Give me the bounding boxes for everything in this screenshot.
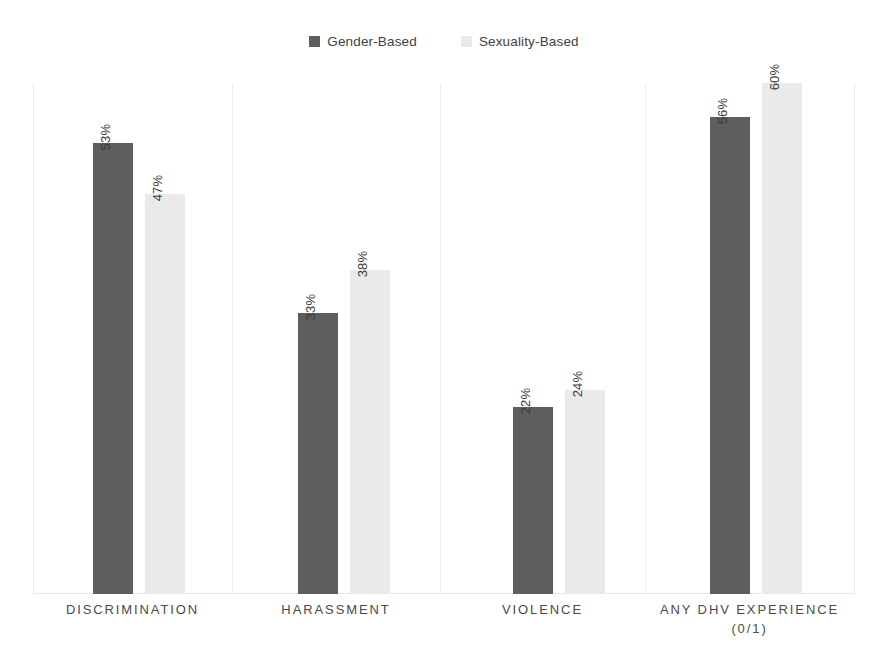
category-label-harassment: HARASSMENT bbox=[232, 600, 440, 619]
bar-value-label: 38% bbox=[355, 251, 370, 278]
legend-entry-gender-based: Gender-Based bbox=[309, 34, 417, 49]
legend-label: Sexuality-Based bbox=[479, 34, 579, 49]
bar-sexuality-based-any-dhv-experience: 60% bbox=[762, 83, 802, 594]
bar-value-label: 33% bbox=[303, 294, 318, 321]
group-separator-1 bbox=[232, 83, 233, 594]
bar-value-label: 47% bbox=[150, 174, 165, 201]
plot-border-right bbox=[854, 83, 855, 594]
legend-swatch-icon bbox=[461, 36, 472, 47]
group-separator-3 bbox=[645, 83, 646, 594]
category-label-discrimination: DISCRIMINATION bbox=[33, 600, 232, 619]
x-axis-category-labels: DISCRIMINATION HARASSMENT VIOLENCE ANY D… bbox=[33, 600, 855, 660]
category-label-violence: VIOLENCE bbox=[440, 600, 645, 619]
bar-value-label: 60% bbox=[767, 64, 782, 91]
legend-swatch-icon bbox=[309, 36, 320, 47]
legend-entry-sexuality-based: Sexuality-Based bbox=[461, 34, 579, 49]
bar-gender-based-discrimination: 53% bbox=[93, 143, 133, 594]
bar-sexuality-based-harassment: 38% bbox=[350, 270, 390, 594]
bar-value-label: 56% bbox=[715, 98, 730, 125]
plot-border-left bbox=[33, 83, 34, 594]
bar-sexuality-based-discrimination: 47% bbox=[145, 194, 185, 594]
plot-area: 53% 47% 33% 38% 22% 24% 56% 60% bbox=[33, 83, 855, 594]
bar-value-label: 24% bbox=[570, 370, 585, 397]
legend-label: Gender-Based bbox=[327, 34, 417, 49]
chart-legend: Gender-Based Sexuality-Based bbox=[0, 34, 888, 49]
bar-value-label: 22% bbox=[518, 387, 533, 414]
category-label-any-dhv-experience: ANY DHV EXPERIENCE (0/1) bbox=[645, 600, 854, 638]
bar-gender-based-any-dhv-experience: 56% bbox=[710, 117, 750, 594]
bar-sexuality-based-violence: 24% bbox=[565, 390, 605, 594]
bar-gender-based-harassment: 33% bbox=[298, 313, 338, 594]
group-separator-2 bbox=[440, 83, 441, 594]
bar-value-label: 53% bbox=[98, 123, 113, 150]
bar-gender-based-violence: 22% bbox=[513, 407, 553, 594]
